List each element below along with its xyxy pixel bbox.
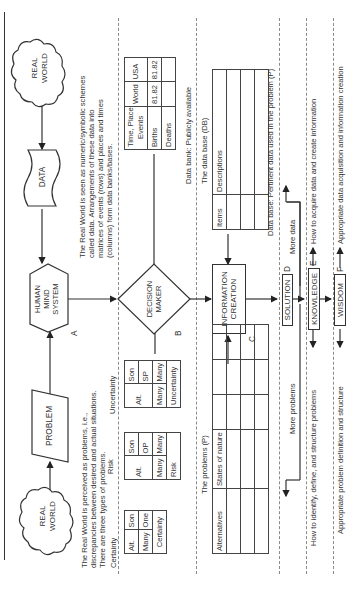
knowledge-problems-text: How to identify, define, and structure p… [309, 390, 318, 546]
db-table: ItemsDescriptions [212, 69, 269, 230]
decision-maker-label: DECISION MAKER [145, 270, 163, 328]
problem-description: The Real World is perceived as problems,… [80, 390, 107, 568]
data-description: The Real World is seen as numeric/symbol… [78, 76, 114, 258]
data-base-pertinent: Data base: Pertinent data used in the pr… [266, 69, 275, 236]
wisdom-problems-text: Appropriate problem definition and struc… [336, 386, 345, 534]
table-row: Births 81.82 81.82 [148, 58, 162, 150]
problem-label: PROBLEM [45, 394, 55, 458]
more-problems-label: More problems [288, 383, 297, 434]
solution-box: SOLUTION [282, 274, 293, 326]
label-b: B [174, 331, 184, 336]
type-certainty: Certainty [109, 538, 118, 568]
label-d: D [283, 266, 293, 272]
real-world-bottom-label: REAL WORLD [38, 496, 58, 536]
type-risk: Risk [106, 459, 115, 474]
more-data-label: More data [288, 220, 297, 254]
label-a: A [70, 331, 80, 336]
problems-table: Alternatives States of nature [212, 324, 269, 554]
hms-label: HUMAN MIND SYSTEM [33, 270, 60, 328]
wisdom-box: WISDOM [334, 274, 346, 326]
type-uncertainty: Uncertainty [108, 376, 117, 414]
data-base-title: The data base (DB) [200, 118, 209, 184]
label-e: E [309, 261, 319, 266]
wisdom-data-text: Appropriate data acquisition and informa… [336, 66, 345, 244]
data-label: DATA [38, 150, 48, 204]
uncertainty-table: Alt.Son SP ManyMany Uncertainty [124, 360, 181, 408]
data-bank-table: Time, Place Events World USA Births 81.8… [124, 57, 176, 150]
problems-title: The problems (P) [200, 435, 209, 494]
knowledge-data-text: How to acquire data and create informati… [309, 99, 318, 244]
knowledge-box: KNOWLEDGE [308, 268, 320, 330]
label-f: F [336, 267, 346, 272]
knowledge-flow-diagram: REAL WORLD REAL WORLD DATA PROBLEM HUMAN… [0, 0, 361, 594]
certainty-table: Alt.Son ManyOne Certainty [124, 510, 167, 554]
risk-table: Alt.Son OP ManyMany Risk [124, 432, 181, 480]
real-world-top-label: REAL WORLD [30, 48, 50, 88]
data-bank-caption: Data bank: Publicly available [184, 87, 193, 184]
table-row: Deaths [162, 58, 176, 150]
